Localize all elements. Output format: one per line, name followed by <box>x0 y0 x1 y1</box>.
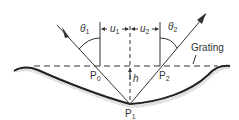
theta2-arc <box>160 38 177 48</box>
h-arrowhead-icon <box>128 68 132 72</box>
incident-arrow-icon <box>62 27 69 38</box>
u2-right-arrowhead-icon <box>155 27 159 31</box>
diagram-canvas: θ1 θ2 u1 u2 h Grating P0 P2 P1 <box>0 0 239 120</box>
p0-label: P0 <box>90 70 101 82</box>
theta1-arc <box>79 38 100 49</box>
theta2-label: θ2 <box>168 21 177 33</box>
theta1-label: θ1 <box>80 23 89 35</box>
grating-leader-line <box>193 55 196 64</box>
p1-label: P1 <box>125 108 136 120</box>
u1-label: u1 <box>110 23 120 35</box>
u2-label: u2 <box>140 23 150 35</box>
p2-label: P2 <box>159 70 170 82</box>
h-label: h <box>133 73 139 84</box>
grating-label: Grating <box>191 42 224 53</box>
u1-right-arrowhead-icon <box>125 27 129 31</box>
u2-left-arrowhead-icon <box>131 27 135 31</box>
u1-left-arrowhead-icon <box>101 27 105 31</box>
